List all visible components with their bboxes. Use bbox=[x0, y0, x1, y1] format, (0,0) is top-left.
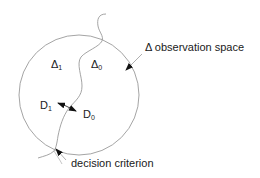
region-label-delta0: Δ0 bbox=[91, 58, 102, 74]
region-subscript: 0 bbox=[98, 64, 102, 71]
observation-space-caption: Δ observation space bbox=[145, 41, 244, 53]
decision-symbol: D bbox=[40, 99, 48, 111]
region-subscript: 1 bbox=[58, 64, 62, 71]
d1-arrow bbox=[58, 103, 66, 106]
decision-criterion-caption: decision criterion bbox=[71, 157, 154, 169]
decision-label-d0: D0 bbox=[83, 108, 95, 124]
region-label-delta1: Δ1 bbox=[51, 58, 62, 74]
decision-symbol: D bbox=[83, 108, 91, 120]
decision-subscript: 1 bbox=[48, 105, 52, 112]
observation-space-leader bbox=[126, 54, 142, 70]
decision-label-d1: D1 bbox=[40, 99, 52, 115]
diagram-canvas bbox=[0, 0, 260, 178]
decision-criterion-curve-tail bbox=[54, 151, 62, 164]
decision-criterion-leader bbox=[56, 149, 66, 160]
observation-space-circle bbox=[19, 35, 139, 155]
decision-subscript: 0 bbox=[91, 114, 95, 121]
